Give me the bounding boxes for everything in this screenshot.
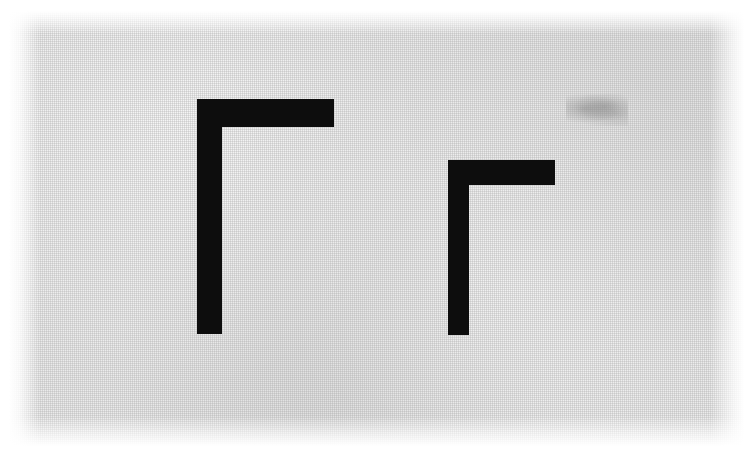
small-gamma-shape — [448, 160, 555, 335]
paper-background — [0, 0, 754, 462]
large-gamma-shape — [197, 99, 334, 334]
image-canvas — [0, 0, 754, 462]
large-gamma-vertical-stem — [197, 99, 222, 334]
small-gamma-vertical-stem — [448, 160, 469, 335]
